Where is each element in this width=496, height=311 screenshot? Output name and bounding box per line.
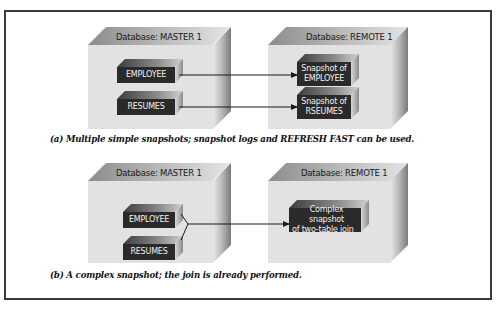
join-line-employee [181, 214, 188, 224]
connector-arrows [0, 0, 496, 311]
join-line-resumes [181, 224, 188, 240]
